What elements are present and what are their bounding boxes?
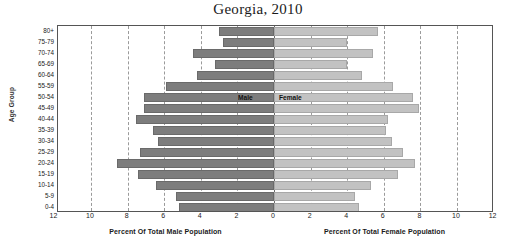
female-bar: [274, 181, 371, 190]
male-bar: [144, 93, 274, 102]
age-group-label: 10-14: [18, 179, 54, 190]
x-tick-label: 2: [298, 212, 322, 219]
x-axis-label-female: Percent Of Total Female Population: [276, 228, 493, 235]
x-tick-label: 4: [334, 212, 358, 219]
male-bar: [219, 27, 274, 36]
age-group-label: 55-59: [18, 80, 54, 91]
age-group-label: 0-4: [18, 201, 54, 212]
bar-row: [58, 191, 492, 202]
bar-row: [58, 125, 492, 136]
bar-row: [58, 70, 492, 81]
bar-row: [58, 147, 492, 158]
x-tick-label: 2: [224, 212, 248, 219]
x-tick-label: 6: [371, 212, 395, 219]
male-bar: [153, 126, 274, 135]
bar-row: [58, 48, 492, 59]
age-group-label: 45-49: [18, 102, 54, 113]
age-group-label: 5-9: [18, 190, 54, 201]
age-group-label: 20-24: [18, 157, 54, 168]
age-group-label: 30-34: [18, 135, 54, 146]
male-bar: [166, 82, 274, 91]
bar-row: [58, 37, 492, 48]
female-bar: [274, 60, 347, 69]
bar-row: [58, 103, 492, 114]
male-bar: [158, 137, 274, 146]
age-group-label: 25-29: [18, 146, 54, 157]
x-tick-label: 6: [151, 212, 175, 219]
x-axis-label-male: Percent Of Total Male Population: [57, 228, 274, 235]
male-bar: [197, 71, 274, 80]
x-tick-label: 10: [78, 212, 102, 219]
female-bar: [274, 82, 393, 91]
female-bar: [274, 38, 347, 47]
x-tick-label: 12: [41, 212, 65, 219]
age-group-label: 40-44: [18, 113, 54, 124]
female-bar: [274, 170, 398, 179]
age-group-label: 65-69: [18, 58, 54, 69]
x-tick-label: 8: [407, 212, 431, 219]
female-bar: [274, 115, 388, 124]
male-bar: [193, 49, 274, 58]
bar-row: [58, 92, 492, 103]
x-tick-label: 0: [261, 212, 285, 219]
x-axis-tick-labels: 12108642024681012: [57, 212, 493, 224]
female-bar: [274, 137, 392, 146]
male-bar: [179, 203, 274, 212]
bar-row: [58, 180, 492, 191]
male-series-label: Male: [238, 92, 253, 103]
bar-row: [58, 158, 492, 169]
page-title: Georgia, 2010: [0, 1, 516, 18]
female-bar: [274, 203, 359, 212]
age-group-label: 50-54: [18, 91, 54, 102]
bar-row: [58, 202, 492, 212]
male-bar: [176, 192, 274, 201]
age-group-label: 60-64: [18, 69, 54, 80]
female-bar: [274, 104, 419, 113]
female-bar: [274, 71, 362, 80]
male-bar: [144, 104, 274, 113]
male-bar: [136, 115, 274, 124]
age-group-label: 80+: [18, 25, 54, 36]
bar-row: [58, 59, 492, 70]
age-group-label: 35-39: [18, 124, 54, 135]
age-group-tick-labels: 80+75-7970-7465-6960-6455-5950-5445-4940…: [18, 25, 54, 212]
male-bar: [140, 148, 274, 157]
female-bar: [274, 27, 378, 36]
male-bar: [223, 38, 274, 47]
female-bar: [274, 126, 386, 135]
population-pyramid-chart: Georgia, 2010 Age Group 80+75-7970-7465-…: [0, 0, 516, 248]
female-bar: [274, 49, 373, 58]
bar-rows: [58, 26, 492, 211]
age-group-label: 75-79: [18, 36, 54, 47]
female-bar: [274, 159, 415, 168]
male-bar: [117, 159, 274, 168]
x-tick-label: 4: [188, 212, 212, 219]
bar-row: [58, 26, 492, 37]
age-group-label: 15-19: [18, 168, 54, 179]
male-bar: [156, 181, 274, 190]
female-series-label: Female: [279, 92, 302, 103]
x-tick-label: 10: [444, 212, 468, 219]
female-bar: [274, 192, 355, 201]
bar-row: [58, 81, 492, 92]
bar-row: [58, 114, 492, 125]
bar-row: [58, 169, 492, 180]
y-axis-title: Age Group: [8, 75, 15, 135]
age-group-label: 70-74: [18, 47, 54, 58]
plot-area: Male Female: [57, 25, 493, 212]
bar-row: [58, 136, 492, 147]
male-bar: [215, 60, 274, 69]
male-bar: [138, 170, 274, 179]
x-tick-label: 12: [481, 212, 505, 219]
female-bar: [274, 148, 403, 157]
x-tick-label: 8: [115, 212, 139, 219]
